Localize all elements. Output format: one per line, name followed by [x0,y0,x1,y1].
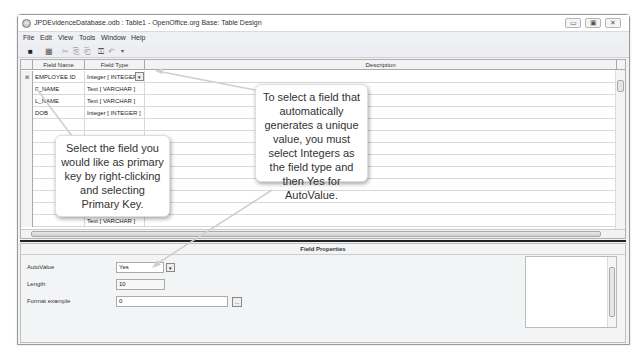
field-type-cell[interactable]: Integer [ INTEGER ] [85,107,145,119]
toolbar: ■ ▦ ✂ ⎘ ⎗ ⚿ ↶ ▾ [18,45,629,58]
row-header[interactable] [21,143,33,155]
cut-icon[interactable]: ✂ [61,47,70,56]
autovalue-dropdown-icon[interactable]: ▾ [166,263,175,272]
openoffice-icon [22,19,31,28]
primary-key-callout: Select the field you would like as prima… [55,135,170,217]
column-header-field-name[interactable]: Field Name [33,60,85,70]
help-text-box [525,256,617,328]
field-type-cell[interactable] [85,119,145,131]
horizontal-scrollbar[interactable] [21,229,625,238]
column-header-field-type[interactable]: Field Type [85,60,145,70]
help-scroll-thumb[interactable] [609,267,615,317]
field-name-cell[interactable]: L_NAME [33,95,85,107]
paste-icon[interactable]: ⎗ [82,47,91,56]
title-bar: JPDEvidenceDatabase.odb : Table1 - OpenO… [18,15,629,32]
vertical-scroll-thumb[interactable] [617,80,624,92]
vertical-scrollbar[interactable] [615,70,625,230]
menu-help[interactable]: Help [131,34,145,41]
pane-splitter[interactable] [20,240,626,242]
menu-tools[interactable]: Tools [79,34,95,41]
maximize-button[interactable]: ▣ [585,18,601,28]
horizontal-scroll-thumb[interactable] [31,231,601,237]
field-type-cell[interactable]: Text [ VARCHAR ] [85,95,145,107]
row-header[interactable] [21,215,33,227]
row-header[interactable] [21,83,33,95]
menu-window[interactable]: Window [101,34,126,41]
header-corner [21,60,33,70]
grid-header: Field Name Field Type Description [21,60,625,70]
row-header[interactable] [21,191,33,203]
row-header[interactable] [21,119,33,131]
autovalue-label: AutoValue [27,264,54,270]
copy-icon[interactable]: ⎘ [71,47,80,56]
edit-icon[interactable]: ▦ [44,47,53,56]
field-type-cell[interactable]: Text [ VARCHAR ] [85,83,145,95]
field-name-cell[interactable]: F_NAME [33,83,85,95]
field-name-cell[interactable]: DOB [33,107,85,119]
row-header[interactable] [21,95,33,107]
undo-icon[interactable]: ↶ [107,47,116,56]
field-name-cell[interactable]: EMPLOYEE ID [33,71,85,83]
menu-file[interactable]: File [23,34,34,41]
autovalue-select[interactable]: Yes [116,262,164,273]
menu-bar: File Edit View Tools Window Help [18,32,629,45]
description-cell[interactable] [145,71,616,83]
primary-key-icon[interactable]: ⚿ [96,47,105,56]
row-header[interactable] [21,203,33,215]
row-header[interactable] [21,155,33,167]
autovalue-callout: To select a field that automatically gen… [255,84,368,182]
field-type-dropdown-icon[interactable]: ▾ [135,72,144,81]
row-header[interactable] [21,107,33,119]
field-properties-panel: Field Properties AutoValue Yes ▾ Length … [20,243,626,343]
help-scrollbar[interactable] [607,257,616,327]
format-example-input[interactable]: 0 [116,296,228,307]
column-header-description[interactable]: Description [145,60,617,70]
menu-edit[interactable]: Edit [40,34,52,41]
toolbar-more-icon[interactable]: ▾ [118,47,127,56]
length-label: Length [27,281,45,287]
menu-view[interactable]: View [58,34,73,41]
save-icon[interactable]: ■ [26,47,35,56]
row-header[interactable] [21,179,33,191]
table-row[interactable]: ⊠ EMPLOYEE ID Integer [ INTEGER ] ▾ [21,71,616,83]
field-properties-title: Field Properties [21,246,625,255]
format-ellipsis-button[interactable]: ... [232,297,242,307]
window-title: JPDEvidenceDatabase.odb : Table1 - OpenO… [34,19,262,26]
format-example-label: Format example [27,298,70,304]
primary-key-marker-icon[interactable]: ⊠ [21,71,33,83]
length-input[interactable]: 10 [116,279,165,290]
window-controls: ▭ ▣ ✕ [565,18,621,28]
field-name-cell[interactable] [33,119,85,131]
close-button[interactable]: ✕ [605,18,621,28]
minimize-button[interactable]: ▭ [565,18,581,28]
row-header[interactable] [21,167,33,179]
row-header[interactable] [21,131,33,143]
